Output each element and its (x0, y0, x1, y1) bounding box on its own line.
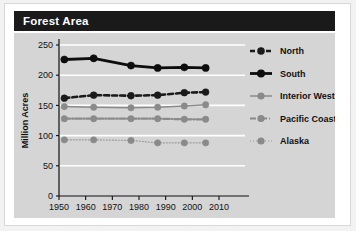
legend-label: Interior West (280, 91, 335, 101)
data-point (90, 104, 96, 110)
data-point (181, 64, 188, 71)
legend-marker-icon (257, 137, 264, 144)
y-tick-label: 0 (48, 191, 53, 201)
series-group (61, 55, 210, 146)
axes (59, 39, 249, 196)
page-title: Forest Area (14, 15, 89, 27)
data-point (154, 140, 160, 146)
legend-marker-icon (257, 92, 264, 99)
data-point (128, 105, 134, 111)
legend-label: North (280, 46, 304, 56)
data-point (90, 92, 97, 99)
data-point (181, 89, 188, 96)
data-point (61, 115, 67, 121)
data-point (202, 140, 208, 146)
data-point (202, 64, 209, 71)
data-point (90, 137, 96, 143)
data-point (181, 116, 187, 122)
data-point (128, 115, 134, 121)
x-tick-label: 1980 (129, 202, 149, 212)
x-tick-label: 2010 (209, 202, 229, 212)
series-alaska (61, 137, 209, 146)
legend-item-interior-west[interactable]: Interior West (250, 91, 335, 101)
line-chart-svg: 0501001502002501950196019701980199020002… (14, 33, 335, 218)
x-tick-label: 1960 (76, 202, 96, 212)
legend-marker-icon (257, 47, 265, 55)
x-tick-label: 1970 (102, 202, 122, 212)
series-interior-west (61, 102, 209, 111)
legend-marker-icon (257, 70, 265, 78)
series-north (61, 89, 209, 102)
series-south (61, 55, 210, 72)
legend-marker-icon (257, 115, 264, 122)
data-point (202, 102, 208, 108)
y-tick-label: 250 (38, 40, 53, 50)
legend-label: Alaska (280, 136, 310, 146)
data-point (61, 103, 67, 109)
y-tick-label: 200 (38, 70, 53, 80)
x-tick-label: 1990 (156, 202, 176, 212)
plot-panel: 0501001502002501950196019701980199020002… (14, 33, 335, 218)
legend-item-north[interactable]: North (250, 46, 304, 56)
x-tick-label: 2000 (182, 202, 202, 212)
data-point (90, 55, 97, 62)
data-point (61, 56, 68, 63)
legend-item-south[interactable]: South (250, 69, 306, 79)
data-point (202, 116, 208, 122)
chart-figure: Forest Area 0501001502002501950196019701… (0, 0, 356, 231)
chart-title-bar: Forest Area (14, 11, 335, 31)
series-pacific-coast (61, 115, 209, 122)
x-axis-ticks: 1950196019701980199020002010 (49, 196, 229, 212)
y-tick-label: 100 (38, 131, 53, 141)
y-axis-ticks: 050100150200250 (38, 40, 59, 201)
data-point (128, 137, 134, 143)
data-point (202, 89, 209, 96)
data-point (181, 103, 187, 109)
legend: NorthSouthInterior WestPacific CoastAlas… (250, 46, 335, 146)
y-tick-label: 150 (38, 101, 53, 111)
data-point (90, 115, 96, 121)
x-tick-label: 1950 (49, 202, 69, 212)
data-point (154, 64, 161, 71)
data-point (61, 137, 67, 143)
data-point (127, 62, 134, 69)
data-point (61, 95, 68, 102)
legend-item-pacific-coast[interactable]: Pacific Coast (250, 114, 335, 124)
data-point (154, 115, 160, 121)
legend-item-alaska[interactable]: Alaska (250, 136, 310, 146)
data-point (181, 140, 187, 146)
y-axis-title: Million Acres (20, 93, 30, 149)
legend-label: South (280, 69, 306, 79)
data-point (154, 104, 160, 110)
y-tick-label: 50 (43, 161, 53, 171)
data-point (128, 92, 135, 99)
data-point (154, 92, 161, 99)
gridlines (59, 45, 245, 166)
legend-label: Pacific Coast (280, 114, 335, 124)
